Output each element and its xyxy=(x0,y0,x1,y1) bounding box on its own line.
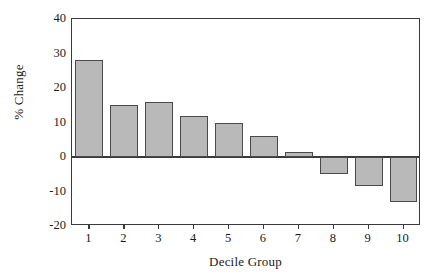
bars-group xyxy=(72,19,419,224)
x-tick-mark xyxy=(193,225,194,229)
y-tick-label: 30 xyxy=(36,47,66,59)
y-axis-title: % Change xyxy=(11,47,27,137)
bar xyxy=(215,123,243,158)
x-tick-mark xyxy=(333,225,334,229)
plot-area xyxy=(71,18,420,225)
bar xyxy=(180,116,208,157)
bar xyxy=(320,157,348,174)
y-tick-label: 20 xyxy=(36,81,66,93)
bar xyxy=(75,60,103,157)
y-tick-label: 0 xyxy=(36,150,66,162)
x-axis-tick-labels: 12345678910 xyxy=(71,231,420,249)
x-tick-mark xyxy=(368,225,369,229)
bar xyxy=(285,152,313,157)
y-tick-label: -20 xyxy=(36,219,66,231)
y-tick-label: -10 xyxy=(36,185,66,197)
x-tick-mark xyxy=(298,225,299,229)
bar xyxy=(250,136,278,157)
bar-chart-figure: % Change 403020100-10-20 12345678910 Dec… xyxy=(0,0,437,280)
y-axis-tick-labels: 403020100-10-20 xyxy=(34,0,66,280)
x-tick-mark xyxy=(263,225,264,229)
x-tick-mark xyxy=(158,225,159,229)
y-tick-label: 10 xyxy=(36,116,66,128)
x-axis-title: Decile Group xyxy=(71,254,420,270)
x-tick-mark xyxy=(123,225,124,229)
x-tick-label: 10 xyxy=(383,231,423,246)
bar xyxy=(355,157,383,186)
x-tick-mark xyxy=(88,225,89,229)
x-tick-mark xyxy=(228,225,229,229)
y-tick-label: 40 xyxy=(36,12,66,24)
x-tick-mark xyxy=(403,225,404,229)
bar xyxy=(145,102,173,157)
bar xyxy=(390,157,418,202)
bar xyxy=(110,105,138,157)
